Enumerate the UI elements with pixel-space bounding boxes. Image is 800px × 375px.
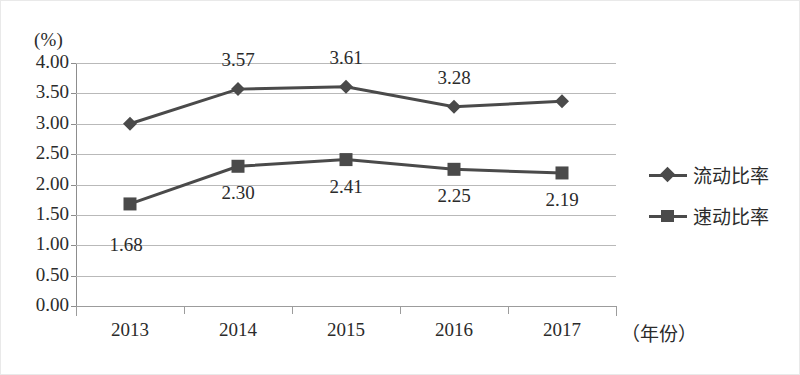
- x-axis-tick-label: 2013: [70, 319, 190, 341]
- y-axis-tick-label: 0.50: [5, 264, 69, 286]
- x-axis-tick-label: 2014: [178, 319, 298, 341]
- gridline: [76, 306, 616, 307]
- data-point-label: 3.61: [291, 47, 401, 69]
- legend-item[interactable]: 速动比率: [649, 202, 769, 229]
- data-point-marker: [448, 163, 461, 176]
- x-axis-tick: [76, 307, 77, 316]
- x-axis-tick: [400, 307, 401, 314]
- x-axis-tick-label: 2016: [394, 319, 514, 341]
- data-point-marker: [123, 117, 137, 131]
- y-axis-tick-label: 4.00: [5, 51, 69, 73]
- y-axis-tick-label: 0.00: [5, 294, 69, 316]
- x-axis-tick: [508, 307, 509, 314]
- y-axis-tick-label: 3.50: [5, 81, 69, 103]
- x-axis-tick-label: 2015: [286, 319, 406, 341]
- x-axis-tick: [616, 307, 617, 316]
- y-axis-tick-label: 1.50: [5, 203, 69, 225]
- data-point-marker: [447, 100, 461, 114]
- data-point-marker: [556, 166, 569, 179]
- square-marker-icon: [649, 208, 687, 224]
- chart-figure: (%) 0.000.501.001.502.002.503.003.504.00…: [0, 0, 800, 375]
- data-point-label: 1.68: [71, 234, 181, 256]
- chart-legend: 流动比率速动比率: [649, 161, 769, 229]
- data-point-label: 2.25: [399, 185, 509, 207]
- y-axis-unit-label: (%): [34, 29, 63, 51]
- x-axis-tick: [292, 307, 293, 314]
- plot-area: 3.573.613.281.682.302.412.252.19: [76, 63, 616, 306]
- data-point-marker: [339, 80, 353, 94]
- data-point-label: 2.30: [183, 182, 293, 204]
- data-point-marker: [124, 197, 137, 210]
- data-point-marker: [555, 94, 569, 108]
- x-axis-title: （年份）: [621, 319, 697, 346]
- y-axis-tick-label: 3.00: [5, 112, 69, 134]
- x-axis-tick: [184, 307, 185, 314]
- y-axis-tick-label: 2.50: [5, 142, 69, 164]
- data-point-marker: [232, 160, 245, 173]
- diamond-marker-icon: [649, 167, 687, 183]
- legend-label: 流动比率: [693, 161, 769, 188]
- y-axis-tick-label: 2.00: [5, 173, 69, 195]
- data-point-label: 2.19: [507, 189, 617, 211]
- data-point-marker: [231, 82, 245, 96]
- data-point-label: 2.41: [291, 176, 401, 198]
- legend-label: 速动比率: [693, 202, 769, 229]
- data-point-label: 3.28: [399, 67, 509, 89]
- data-point-marker: [340, 153, 353, 166]
- y-axis-tick-label: 1.00: [5, 233, 69, 255]
- legend-item[interactable]: 流动比率: [649, 161, 769, 188]
- data-point-label: 3.57: [183, 49, 293, 71]
- legend-marker-shape: [661, 210, 674, 222]
- x-axis-tick-label: 2017: [502, 319, 622, 341]
- legend-marker-shape: [660, 166, 676, 182]
